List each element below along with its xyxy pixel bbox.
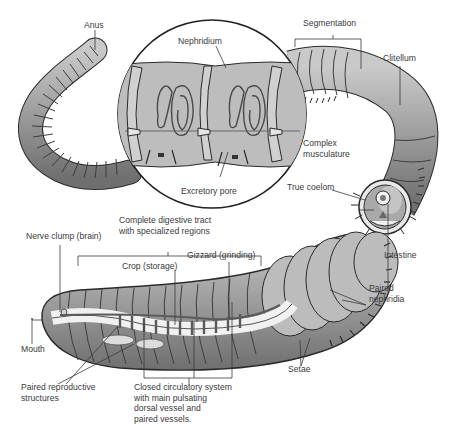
label-segmentation: Segmentation bbox=[303, 18, 356, 29]
label-crop: Crop (storage) bbox=[122, 261, 177, 272]
diagram-artwork bbox=[0, 0, 449, 435]
label-clitellum: Clitellum bbox=[383, 53, 416, 64]
upper-worm-tail bbox=[30, 46, 130, 178]
label-setae: Setae bbox=[288, 364, 310, 375]
label-circulatory-system: Closed circulatory system with main puls… bbox=[134, 382, 232, 424]
label-excretory-pore: Excretory pore bbox=[181, 186, 237, 197]
earthworm-anatomy-diagram: Anus Nephridium Segmentation Clitellum C… bbox=[0, 0, 449, 435]
label-paired-nephridia: Paired nephridia bbox=[369, 283, 404, 304]
label-mouth: Mouth bbox=[21, 344, 45, 355]
label-nephridium: Nephridium bbox=[178, 36, 222, 47]
label-complex-musculature: Complex musculature bbox=[303, 138, 350, 159]
label-anus: Anus bbox=[84, 20, 104, 31]
label-digestive-tract: Complete digestive tract with specialize… bbox=[119, 215, 211, 236]
magnified-segments-inset bbox=[110, 20, 325, 208]
label-gizzard: Gizzard (grinding) bbox=[187, 250, 255, 261]
label-nerve-clump: Nerve clump (brain) bbox=[26, 231, 101, 242]
label-intestine: Intestine bbox=[384, 250, 417, 261]
label-reproductive-structures: Paired reproductive structures bbox=[21, 382, 96, 403]
label-true-coelom: True coelom bbox=[287, 182, 334, 193]
